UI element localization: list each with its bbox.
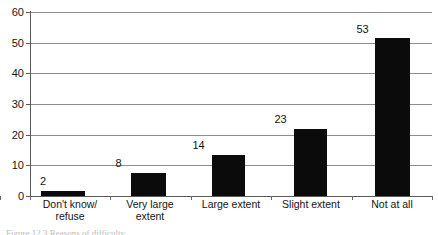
- y-tick-label-20: 20: [0, 130, 24, 141]
- y-tick-label-10: 10: [0, 160, 24, 171]
- bar-very-large-extent[interactable]: [131, 173, 166, 196]
- value-label-large-extent: 14: [178, 140, 219, 151]
- y-tick-label-0: 0: [0, 191, 24, 202]
- y-tick-label-50: 50: [0, 38, 24, 49]
- bars-layer: [30, 12, 432, 196]
- y-tick-label-30: 30: [0, 99, 24, 110]
- x-axis-category-labels: Don't know/ refuse Very large extent Lar…: [30, 199, 432, 225]
- bar-large-extent[interactable]: [212, 155, 245, 196]
- category-label-not-at-all: Not at all: [344, 199, 438, 211]
- y-tick-label-60: 60: [0, 7, 24, 18]
- figure-caption: Figure 12.3 Reasons of difficulty ...: [6, 228, 426, 235]
- category-label-line-1: Not at all: [344, 199, 438, 211]
- value-label-very-large-extent: 8: [98, 158, 139, 169]
- x-axis-line: [30, 196, 432, 197]
- category-label-line-2: extent: [102, 211, 198, 223]
- value-label-dont-know-refuse: 2: [23, 176, 63, 187]
- bar-dont-know-refuse[interactable]: [41, 191, 85, 196]
- bar-not-at-all[interactable]: [375, 38, 410, 196]
- bar-slight-extent[interactable]: [294, 129, 327, 196]
- value-label-not-at-all: 53: [342, 24, 383, 35]
- bar-chart-figure: 60 50 40 30 20 10 0: [0, 0, 438, 235]
- x-tick-2: [0, 196, 1, 200]
- value-label-slight-extent: 23: [260, 114, 301, 125]
- y-tick-label-40: 40: [0, 68, 24, 79]
